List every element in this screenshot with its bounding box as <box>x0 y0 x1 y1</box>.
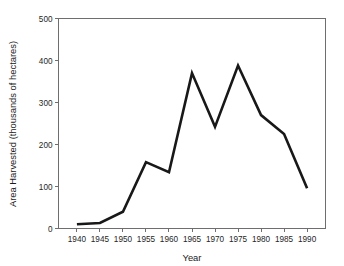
y-axis-title: Area Harvested (thousands of hectares) <box>7 41 18 207</box>
x-tick-label: 1990 <box>298 235 317 244</box>
line-chart: 0100200300400500 19401945195019551960196… <box>0 0 344 266</box>
y-tick-label: 400 <box>39 57 53 66</box>
y-tick-label: 300 <box>39 99 53 108</box>
x-axis-tick-labels: 1940194519501955196019651970197519801985… <box>68 235 317 244</box>
x-tick-label: 1945 <box>91 235 110 244</box>
x-tick-label: 1985 <box>275 235 294 244</box>
x-tick-label: 1970 <box>206 235 225 244</box>
x-tick-label: 1975 <box>229 235 248 244</box>
x-axis-title: Year <box>183 252 202 263</box>
y-tick-label: 100 <box>39 183 53 192</box>
x-tick-label: 1980 <box>252 235 271 244</box>
x-tick-label: 1960 <box>160 235 179 244</box>
y-tick-label: 0 <box>48 225 53 234</box>
x-tick-label: 1965 <box>183 235 202 244</box>
y-tick-label: 500 <box>39 15 53 24</box>
x-tick-label: 1955 <box>137 235 156 244</box>
y-tick-label: 200 <box>39 141 53 150</box>
x-tick-label: 1950 <box>114 235 133 244</box>
chart-figure: 0100200300400500 19401945195019551960196… <box>0 0 344 266</box>
x-tick-label: 1940 <box>68 235 87 244</box>
